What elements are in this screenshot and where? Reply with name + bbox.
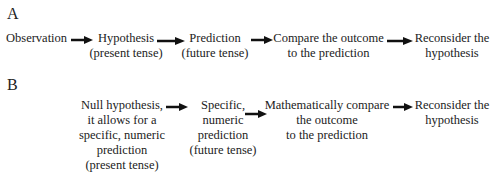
node-text: (present tense) [76, 158, 168, 173]
node-text: prediction [183, 128, 263, 143]
node-text: Observation [6, 31, 67, 46]
panel-b-label: B [7, 77, 18, 93]
node-hypothesis: Hypothesis (present tense) [86, 31, 166, 61]
node-reconsider-b: Reconsider the hypothesis [412, 98, 492, 128]
node-text: prediction [76, 143, 168, 158]
node-observation: Observation [6, 31, 67, 46]
node-text: Reconsider the [412, 98, 492, 113]
node-subtext: to the prediction [271, 46, 386, 61]
node-text: Compare the outcome [271, 31, 386, 46]
node-text: specific, numeric [76, 128, 168, 143]
node-text: Mathematically compare [262, 98, 392, 113]
node-text: it allows for a [76, 113, 168, 128]
panel-a-label: A [7, 6, 19, 22]
node-text: Null hypothesis, [76, 98, 168, 113]
node-text: to the prediction [262, 128, 392, 143]
node-specific-prediction: Specific, numeric prediction (future ten… [183, 98, 263, 158]
arrow-icon [393, 102, 413, 112]
node-prediction: Prediction (future tense) [180, 31, 250, 61]
node-reconsider: Reconsider the hypothesis [412, 31, 492, 61]
node-compare: Compare the outcome to the prediction [271, 31, 386, 61]
node-null-hypothesis: Null hypothesis, it allows for a specifi… [76, 98, 168, 173]
node-text: Reconsider the [412, 31, 492, 46]
arrow-icon [251, 35, 273, 45]
node-subtext: (present tense) [86, 46, 166, 61]
node-text: the outcome [262, 113, 392, 128]
node-subtext: hypothesis [412, 46, 492, 61]
node-mathematically-compare: Mathematically compare the outcome to th… [262, 98, 392, 143]
node-text: Prediction [180, 31, 250, 46]
node-text: hypothesis [412, 113, 492, 128]
node-text: (future tense) [183, 143, 263, 158]
arrow-icon [387, 36, 413, 46]
node-text: Hypothesis [86, 31, 166, 46]
node-subtext: (future tense) [180, 46, 250, 61]
